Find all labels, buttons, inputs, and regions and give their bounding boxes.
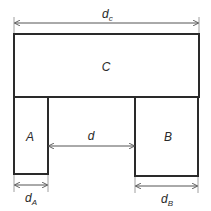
block-c-label: C bbox=[102, 60, 111, 74]
d-label: d bbox=[88, 129, 95, 143]
da-label: dA bbox=[25, 191, 37, 207]
block-a-label: A bbox=[25, 130, 34, 144]
block-b-label: B bbox=[164, 130, 172, 144]
dimension-diagram: C A B dc d dA dB bbox=[0, 0, 211, 211]
dc-label: dc bbox=[102, 7, 113, 23]
db-label: dB bbox=[161, 192, 174, 208]
extension-lines bbox=[14, 17, 199, 193]
